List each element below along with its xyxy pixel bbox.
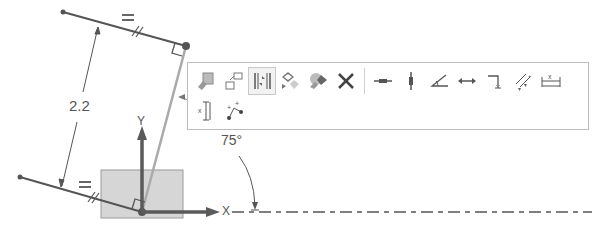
toolbar-row-2: x ++ — [192, 97, 248, 125]
horizontal-constraint-icon — [372, 70, 394, 92]
context-toolbar: + x x ++ — [187, 62, 589, 130]
angle-constraint-icon — [428, 70, 450, 92]
vertical-constraint-button[interactable] — [397, 67, 425, 95]
convert-reference-icon — [279, 70, 301, 92]
delete-icon — [335, 70, 357, 92]
angle-dimension-leader[interactable] — [239, 156, 259, 210]
offset-constraint-icon: + — [512, 70, 534, 92]
vertical-dimension-icon: x — [195, 100, 217, 122]
svg-text:+: + — [528, 73, 532, 79]
top-line[interactable] — [63, 12, 186, 46]
horizontal-dimension-button[interactable]: x — [537, 67, 565, 95]
delete-button[interactable] — [332, 67, 360, 95]
perpendicular-constraint-icon — [484, 70, 506, 92]
bottom-line-start-point[interactable] — [18, 175, 23, 180]
angle-constraint-button[interactable] — [425, 67, 453, 95]
paste-icon — [195, 70, 217, 92]
svg-text:x: x — [198, 107, 202, 114]
length-constraint-icon — [456, 70, 478, 92]
equal-marker-top — [122, 15, 134, 20]
svg-text:+: + — [235, 100, 239, 107]
replace-button[interactable] — [304, 67, 332, 95]
horizontal-dimension-icon: x — [540, 70, 562, 92]
x-axis-label: X — [222, 204, 230, 218]
vertical-constraint-icon — [400, 70, 422, 92]
copy-button[interactable] — [220, 67, 248, 95]
copy-geometry-icon — [223, 70, 245, 92]
paste-button[interactable] — [192, 67, 220, 95]
length-constraint-button[interactable] — [453, 67, 481, 95]
svg-text:+: + — [227, 104, 231, 111]
angle-value-label[interactable]: 75° — [221, 132, 242, 148]
top-line-start-point[interactable] — [61, 10, 66, 15]
offset-constraint-button[interactable]: + — [509, 67, 537, 95]
convert-button[interactable] — [276, 67, 304, 95]
mirror-dimension-button[interactable] — [248, 67, 276, 95]
equal-marker-bottom — [79, 182, 91, 187]
horizontal-constraint-button[interactable] — [369, 67, 397, 95]
toolbar-separator — [364, 68, 365, 94]
replace-icon — [307, 70, 329, 92]
toolbar-row-1: + x — [192, 67, 565, 95]
y-axis-label: Y — [137, 114, 145, 128]
svg-text:x: x — [548, 73, 552, 80]
mirror-dimension-icon — [251, 70, 273, 92]
point-distance-icon: ++ — [223, 100, 245, 122]
top-vertex-point[interactable] — [182, 42, 190, 50]
vertical-dimension-button[interactable]: x — [192, 97, 220, 125]
point-distance-button[interactable]: ++ — [220, 97, 248, 125]
dimension-value-label[interactable]: 2.2 — [69, 97, 90, 114]
perpendicular-constraint-button[interactable] — [481, 67, 509, 95]
